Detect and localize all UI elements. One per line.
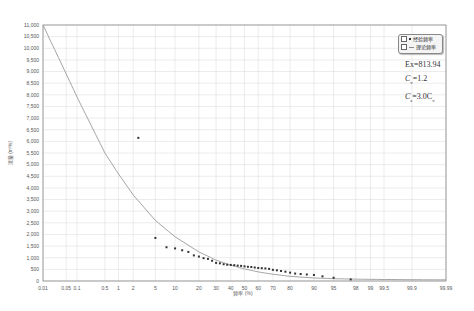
data-point (350, 278, 352, 280)
data-point (207, 258, 209, 260)
data-point (219, 262, 221, 264)
x-tick-label: 0.5 (101, 285, 108, 291)
grid-lines (43, 25, 446, 281)
data-point (276, 269, 278, 271)
x-tick-label: 99.9 (407, 285, 417, 291)
y-tick-label: 10,500 (24, 33, 40, 39)
data-point (215, 262, 217, 264)
y-tick-label: 8,000 (26, 92, 39, 98)
y-axis-ticks: 05001,0001,5002,0002,5003,0003,5004,0004… (24, 22, 40, 284)
data-point (237, 265, 239, 267)
legend-item-empirical[interactable]: 经验频率 (399, 35, 442, 43)
y-tick-label: 6,000 (26, 138, 39, 144)
y-tick-label: 0 (36, 278, 39, 284)
data-point (203, 257, 205, 259)
x-tick-label: 99 (368, 285, 374, 291)
y-tick-label: 4,500 (26, 173, 39, 179)
data-point (289, 272, 291, 274)
data-point (244, 265, 246, 267)
data-point (137, 137, 139, 139)
data-point (254, 267, 256, 269)
x-tick-label: 0.01 (38, 285, 48, 291)
data-point (321, 275, 323, 277)
y-tick-label: 3,500 (26, 196, 39, 202)
data-point (247, 266, 249, 268)
y-axis-label: 流量 (m³/s) (7, 140, 14, 165)
data-point (193, 254, 195, 256)
data-point (240, 265, 242, 267)
data-point (333, 277, 335, 279)
data-point (261, 267, 263, 269)
data-point (154, 237, 156, 239)
data-point (268, 268, 270, 270)
legend-item-theoretical[interactable]: 理论频率 (399, 43, 442, 51)
data-point (226, 264, 228, 266)
data-point (211, 260, 213, 262)
data-point (313, 274, 315, 276)
data-point (223, 263, 225, 265)
data-point (181, 249, 183, 251)
legend-label-empirical: 经验频率 (413, 35, 433, 43)
data-point (280, 270, 282, 272)
x-axis-label: 频率 (%) (233, 290, 253, 297)
cv-value: Cv=1.2 (405, 72, 440, 90)
y-tick-label: 7,500 (26, 103, 39, 109)
x-tick-label: 0.05 (61, 285, 71, 291)
y-tick-label: 8,500 (26, 80, 39, 86)
y-tick-label: 9,000 (26, 68, 39, 74)
data-point (230, 264, 232, 266)
x-tick-label: 99.5 (379, 285, 389, 291)
x-tick-label: 60 (255, 285, 261, 291)
x-tick-label: 80 (287, 285, 293, 291)
data-point (250, 266, 252, 268)
dot-marker-icon (409, 38, 411, 40)
data-point (306, 273, 308, 275)
data-point (294, 273, 296, 275)
y-tick-label: 5,000 (26, 161, 39, 167)
y-tick-label: 9,500 (26, 57, 39, 63)
y-tick-label: 7,000 (26, 115, 39, 121)
data-point (257, 267, 259, 269)
legend-label-theoretical: 理论频率 (416, 43, 436, 51)
x-tick-label: 10 (172, 285, 178, 291)
checkbox-icon[interactable] (401, 44, 407, 50)
data-point (284, 271, 286, 273)
x-tick-label: 5 (154, 285, 157, 291)
data-point (198, 256, 200, 258)
y-tick-label: 11,000 (24, 22, 39, 28)
y-tick-label: 6,500 (26, 127, 39, 133)
statistics-annotation: Ex=813.94 Cv=1.2 Cs=3.0Cv (405, 58, 440, 107)
x-tick-label: 20 (196, 285, 202, 291)
cs-value: Cs=3.0Cv (405, 90, 440, 108)
x-tick-label: 90 (311, 285, 317, 291)
data-point (166, 246, 168, 248)
data-point (300, 273, 302, 275)
legend: 经验频率 理论频率 (398, 34, 443, 54)
data-point (272, 269, 274, 271)
y-tick-label: 1,500 (26, 243, 39, 249)
y-tick-label: 3,000 (26, 208, 39, 214)
y-tick-label: 2,000 (26, 231, 39, 237)
data-point (174, 247, 176, 249)
y-tick-label: 2,500 (26, 220, 39, 226)
y-tick-label: 10,000 (24, 45, 40, 51)
data-point (187, 251, 189, 253)
y-tick-label: 1,000 (26, 255, 39, 261)
y-tick-label: 500 (31, 266, 40, 272)
data-point (233, 264, 235, 266)
x-tick-label: 98 (353, 285, 359, 291)
x-tick-label: 70 (270, 285, 276, 291)
x-tick-label: 99.99 (440, 285, 453, 291)
x-tick-label: 2 (132, 285, 135, 291)
x-tick-label: 0.1 (74, 285, 81, 291)
y-tick-label: 5,500 (26, 150, 39, 156)
checkbox-icon[interactable] (401, 36, 407, 42)
x-tick-label: 95 (331, 285, 337, 291)
y-tick-label: 4,000 (26, 185, 39, 191)
data-point (264, 267, 266, 269)
ex-value: Ex=813.94 (405, 58, 440, 72)
line-marker-icon (409, 47, 414, 48)
x-tick-label: 30 (213, 285, 219, 291)
x-tick-label: 1 (117, 285, 120, 291)
